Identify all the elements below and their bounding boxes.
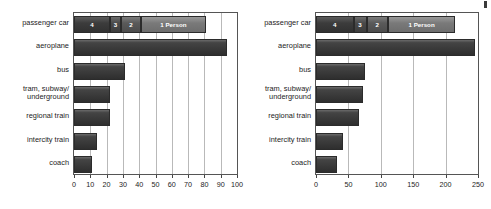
x-tick-label: 50 bbox=[152, 180, 160, 189]
bar-bus bbox=[74, 63, 125, 80]
stacked-bar-passenger-car: 4321 Person bbox=[74, 16, 206, 33]
x-tick bbox=[221, 175, 222, 178]
bar-row bbox=[316, 109, 478, 126]
bar-segment-1-person: 1 Person bbox=[141, 16, 206, 33]
bar-segment-3: 3 bbox=[110, 16, 121, 33]
bar-intercity-train bbox=[316, 133, 343, 150]
x-axis-right: 050100150200250 bbox=[315, 175, 479, 199]
category-label: regional train bbox=[268, 112, 311, 121]
bar-regional-train bbox=[74, 109, 110, 126]
bar-coach bbox=[74, 156, 92, 173]
x-tick bbox=[172, 175, 173, 178]
x-tick-label: 100 bbox=[231, 180, 243, 189]
x-tick-label: 90 bbox=[217, 180, 225, 189]
bar-intercity-train bbox=[74, 133, 97, 150]
bar-tram-subway-underground bbox=[316, 86, 363, 103]
category-label: coach bbox=[49, 159, 69, 168]
x-tick-label: 100 bbox=[375, 180, 387, 189]
category-label: tram, subway/underground bbox=[239, 85, 311, 102]
x-tick-label: 30 bbox=[119, 180, 127, 189]
bar-series-left: 4321 Person bbox=[74, 13, 237, 174]
bar-row bbox=[316, 156, 478, 173]
plot-area-right: 4321 Person bbox=[315, 12, 479, 175]
chart-panel-left: passenger caraeroplanebustram, subway/un… bbox=[0, 0, 245, 209]
category-label: aeroplane bbox=[278, 42, 311, 51]
bar-row: 4321 Person bbox=[74, 16, 237, 33]
x-tick bbox=[74, 175, 75, 178]
x-tick bbox=[478, 175, 479, 178]
x-tick bbox=[237, 175, 238, 178]
category-label: coach bbox=[291, 159, 311, 168]
x-tick bbox=[381, 175, 382, 178]
bar-row bbox=[316, 39, 478, 56]
x-tick bbox=[348, 175, 349, 178]
x-tick-label: 0 bbox=[72, 180, 76, 189]
x-tick bbox=[139, 175, 140, 178]
x-tick-label: 150 bbox=[407, 180, 419, 189]
x-tick-label: 0 bbox=[314, 180, 318, 189]
bar-row bbox=[316, 86, 478, 103]
figure-root: passenger caraeroplanebustram, subway/un… bbox=[0, 0, 491, 209]
bar-row: 4321 Person bbox=[316, 16, 478, 33]
bar-segment-4: 4 bbox=[316, 16, 354, 33]
bar-row bbox=[74, 63, 237, 80]
bar-row bbox=[74, 86, 237, 103]
category-label: bus bbox=[299, 66, 311, 75]
x-tick bbox=[316, 175, 317, 178]
bar-tram-subway-underground bbox=[74, 86, 110, 103]
x-tick-label: 200 bbox=[440, 180, 452, 189]
stacked-bar-passenger-car: 4321 Person bbox=[316, 16, 455, 33]
x-tick bbox=[204, 175, 205, 178]
bar-series-right: 4321 Person bbox=[316, 13, 478, 174]
x-tick-label: 10 bbox=[86, 180, 94, 189]
x-tick-label: 60 bbox=[168, 180, 176, 189]
category-label: regional train bbox=[26, 112, 69, 121]
x-tick bbox=[446, 175, 447, 178]
category-label: passenger car bbox=[264, 19, 311, 28]
x-tick-label: 80 bbox=[200, 180, 208, 189]
x-tick bbox=[107, 175, 108, 178]
bar-segment-3: 3 bbox=[354, 16, 367, 33]
x-tick bbox=[188, 175, 189, 178]
bar-segment-4: 4 bbox=[74, 16, 110, 33]
bar-row bbox=[74, 39, 237, 56]
bar-segment-1-person: 1 Person bbox=[388, 16, 455, 33]
bar-aeroplane bbox=[316, 39, 475, 56]
bar-bus bbox=[316, 63, 365, 80]
x-tick-label: 250 bbox=[472, 180, 484, 189]
category-label: intercity train bbox=[27, 136, 69, 145]
x-tick bbox=[413, 175, 414, 178]
bar-row bbox=[74, 109, 237, 126]
bar-row bbox=[74, 156, 237, 173]
corner-mark-artifact bbox=[484, 1, 487, 8]
x-tick-label: 70 bbox=[184, 180, 192, 189]
bar-coach bbox=[316, 156, 337, 173]
category-label: aeroplane bbox=[36, 42, 69, 51]
plot-area-left: 4321 Person bbox=[73, 12, 238, 175]
bar-segment-2: 2 bbox=[367, 16, 388, 33]
bar-segment-2: 2 bbox=[121, 16, 141, 33]
category-label: tram, subway/underground bbox=[0, 85, 69, 102]
x-tick-label: 50 bbox=[344, 180, 352, 189]
bar-aeroplane bbox=[74, 39, 227, 56]
x-tick bbox=[123, 175, 124, 178]
x-tick-label: 20 bbox=[103, 180, 111, 189]
category-label: intercity train bbox=[269, 136, 311, 145]
category-label-column-left: passenger caraeroplanebustram, subway/un… bbox=[0, 12, 72, 175]
bar-row bbox=[316, 63, 478, 80]
bar-row bbox=[316, 133, 478, 150]
x-axis-left: 0102030405060708090100 bbox=[73, 175, 238, 199]
bar-regional-train bbox=[316, 109, 359, 126]
x-tick bbox=[156, 175, 157, 178]
x-tick bbox=[90, 175, 91, 178]
x-tick-label: 40 bbox=[135, 180, 143, 189]
category-label-column-right: passenger caraeroplanebustram, subway/un… bbox=[246, 12, 314, 175]
chart-panel-right: passenger caraeroplanebustram, subway/un… bbox=[246, 0, 491, 209]
category-label: passenger car bbox=[22, 19, 69, 28]
bar-row bbox=[74, 133, 237, 150]
category-label: bus bbox=[57, 66, 69, 75]
